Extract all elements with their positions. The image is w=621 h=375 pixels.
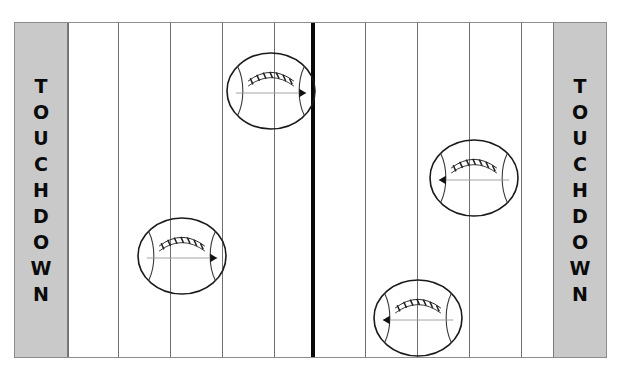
football-tip-seam-0 [441,153,446,202]
yard-line-8 [469,23,470,357]
football-stitch-1 [257,75,260,81]
football-stitch-3 [473,159,476,165]
football-tip-seam-1 [299,66,304,115]
football-stitch-2 [263,73,266,79]
football-tip-seam-0 [238,66,243,115]
endzone-right-letter-6: O [554,229,606,255]
football-field: TOUCHDOWN TOUCHDOWN [14,22,607,358]
football-stitch-2 [174,238,177,244]
endzone-right-letter-3: C [554,151,606,177]
football-tip-seam-1 [446,293,451,342]
football-lace-spine-lower [159,243,205,251]
endzone-left-letter-7: W [15,255,67,281]
football-stitch-5 [194,240,197,246]
football-tip-seam-0 [385,293,390,342]
football-stitch-3 [181,237,184,243]
football-lace-spine-lower [248,78,294,86]
football-lace-spine [248,72,294,81]
football-top-left [224,50,318,132]
endzone-left-letter-2: U [15,125,67,151]
endzone-left-letter-3: C [15,151,67,177]
endzone-left-letter-5: D [15,203,67,229]
yard-line-0 [68,23,69,357]
endzone-left-label: TOUCHDOWN [15,73,67,307]
football-stitch-0 [453,165,456,171]
football-stitch-1 [460,162,463,168]
football-stitch-5 [430,302,433,308]
football-stitch-2 [410,300,413,306]
yard-line-1 [118,23,119,357]
endzone-right: TOUCHDOWN [553,23,606,357]
direction-arrow-head-right [299,89,306,97]
endzone-right-letter-1: O [554,99,606,125]
yard-line-3 [222,23,223,357]
endzone-right-letter-7: W [554,255,606,281]
football-tip-seam-1 [210,231,215,280]
football-lace-spine [451,159,497,168]
football-outline [374,280,462,356]
endzone-right-letter-0: T [554,73,606,99]
football-outline [138,218,226,294]
endzone-right-letter-5: D [554,203,606,229]
yard-line-4 [274,23,275,357]
endzone-right-letter-4: H [554,177,606,203]
football-stitch-0 [161,243,164,249]
football-stitch-4 [187,238,190,244]
football-lace-spine [395,299,441,308]
yard-line-6 [365,23,366,357]
midfield-line [311,23,315,357]
football-stitch-1 [404,302,407,308]
football-outline [227,53,315,129]
endzone-right-letter-2: U [554,125,606,151]
endzone-left-letter-8: N [15,281,67,307]
direction-arrow-head-left [439,176,446,184]
football-outline [430,140,518,216]
football-stitch-6 [492,165,495,171]
football-stitch-6 [289,78,292,84]
football-stitch-4 [479,160,482,166]
endzone-left-letter-0: T [15,73,67,99]
football-tip-seam-0 [149,231,154,280]
football-stitch-6 [200,243,203,249]
endzone-left-letter-6: O [15,229,67,255]
yard-line-9 [521,23,522,357]
football-stitch-5 [486,162,489,168]
football-lace-spine [159,237,205,246]
endzone-left: TOUCHDOWN [15,23,68,357]
football-lace-spine-lower [451,165,497,173]
football-stitch-6 [436,305,439,311]
direction-arrow-head-right [210,254,217,262]
football-stitch-0 [250,78,253,84]
football-mid-right [427,137,521,219]
endzone-right-letter-8: N [554,281,606,307]
football-mid-left [135,215,229,297]
screenshot-root: TOUCHDOWN TOUCHDOWN [0,0,621,375]
football-stitch-3 [270,72,273,78]
yard-line-7 [417,23,418,357]
football-bottom-right [371,277,465,358]
football-stitch-0 [397,305,400,311]
yard-line-2 [170,23,171,357]
football-stitch-4 [423,300,426,306]
endzone-right-label: TOUCHDOWN [554,73,606,307]
football-stitch-4 [276,73,279,79]
football-lace-spine-lower [395,305,441,313]
endzone-left-letter-1: O [15,99,67,125]
football-stitch-5 [283,75,286,81]
endzone-left-letter-4: H [15,177,67,203]
direction-arrow-head-left [383,316,390,324]
football-tip-seam-1 [502,153,507,202]
